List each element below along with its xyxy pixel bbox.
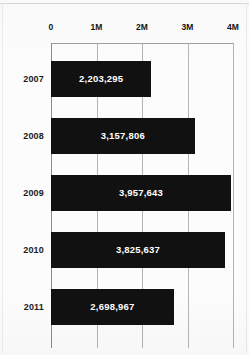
bar-value-label-2010: 3,825,637 [51,232,225,268]
page-frame-right-rule [246,3,247,353]
bar-value-label-2007: 2,203,295 [51,61,151,97]
page-frame-top-rule [0,3,249,4]
bar-2007[interactable]: 2,203,295 [51,61,151,97]
x-axis-tick-label-0: 0 [49,22,54,32]
gridline-4m [233,43,234,348]
x-axis-tick-label-3m: 3M [181,22,193,32]
category-label-2007: 2007 [0,61,44,97]
bar-value-label-2009: 3,957,643 [51,175,231,211]
bar-value-label-2008: 3,157,806 [51,118,195,154]
x-axis-tick-label-1m: 1M [90,22,102,32]
category-label-2008: 2008 [0,118,44,154]
category-label-2010: 2010 [0,232,44,268]
category-label-2009: 2009 [0,175,44,211]
bar-2011[interactable]: 2,698,967 [51,289,174,325]
x-axis-tick-label-4m: 4M [227,22,239,32]
bar-value-label-2011: 2,698,967 [51,289,174,325]
bar-2010[interactable]: 3,825,637 [51,232,225,268]
x-axis-tick-label-2m: 2M [136,22,148,32]
category-label-2011: 2011 [0,289,44,325]
bar-2008[interactable]: 3,157,806 [51,118,195,154]
bar-2009[interactable]: 3,957,643 [51,175,231,211]
bar-chart-figure: 0 1M 2M 3M 4M 2007 2,203,295 2008 3,157,… [0,0,249,355]
